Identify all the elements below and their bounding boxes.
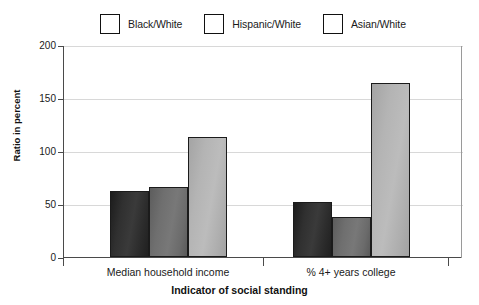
x-axis-title: Indicator of social standing (0, 284, 479, 296)
legend-item-asian-white: Asian/White (323, 14, 406, 34)
x-category-label-1: % 4+ years college (261, 266, 441, 278)
y-tick-label-50: 50 (16, 200, 56, 210)
bar-1-0 (293, 202, 332, 257)
legend-swatch-icon-hispanic-white (204, 14, 224, 34)
y-tick-50 (58, 205, 64, 206)
y-tick-100 (58, 152, 64, 153)
legend-swatch-icon-black-white (100, 14, 120, 34)
bar-1-1 (332, 217, 371, 257)
legend-swatch-icon-asian-white (323, 14, 343, 34)
x-category-label-0: Median household income (78, 266, 258, 278)
y-tick-label-200: 200 (16, 41, 56, 51)
legend-item-black-white: Black/White (100, 14, 182, 34)
gridline-y-200 (64, 46, 463, 47)
x-tick-1 (263, 258, 264, 266)
legend-label-asian-white: Asian/White (351, 18, 406, 30)
bar-0-2 (188, 137, 227, 257)
chart-legend: Black/White Hispanic/White Asian/White (100, 14, 460, 34)
y-axis-title: Ratio in percent (11, 71, 22, 181)
y-tick-label-0: 0 (16, 253, 56, 263)
y-tick-150 (58, 99, 64, 100)
bar-chart-figure: Black/White Hispanic/White Asian/White 0… (0, 0, 479, 305)
y-tick-label-150: 150 (16, 94, 56, 104)
legend-label-hispanic-white: Hispanic/White (232, 18, 301, 30)
bar-0-0 (110, 191, 149, 257)
x-tick-2 (448, 258, 449, 266)
legend-item-hispanic-white: Hispanic/White (204, 14, 301, 34)
x-tick-0 (63, 258, 64, 266)
bar-0-1 (149, 187, 188, 257)
plot-right-border (461, 46, 462, 258)
legend-label-black-white: Black/White (128, 18, 182, 30)
bar-1-2 (371, 83, 410, 257)
y-tick-label-100: 100 (16, 147, 56, 157)
y-tick-200 (58, 46, 64, 47)
plot-area (63, 46, 462, 258)
